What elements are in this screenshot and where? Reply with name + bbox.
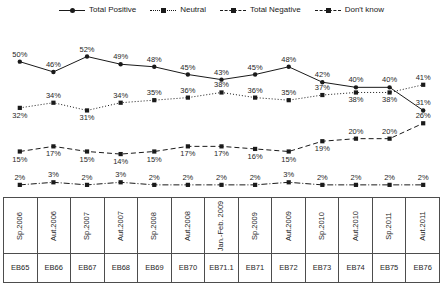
data-label: 26% — [416, 112, 431, 120]
series-point[interactable] — [253, 96, 257, 100]
data-label: 15% — [12, 156, 27, 164]
axis-code-label: EB68 — [112, 264, 130, 272]
series-point[interactable] — [152, 98, 156, 102]
series-point[interactable] — [320, 183, 324, 187]
axis-column: Sp.2006EB65 — [4, 198, 38, 282]
series-point[interactable] — [18, 59, 22, 63]
series-point[interactable] — [119, 180, 123, 184]
legend-item-label: Total Negative — [250, 5, 301, 15]
series-point[interactable] — [85, 108, 89, 112]
series-point[interactable] — [51, 144, 55, 148]
data-label: 34% — [113, 92, 128, 100]
series-point[interactable] — [51, 101, 55, 105]
axis-period-cell: Aut.2010 — [339, 198, 372, 253]
series-point[interactable] — [51, 180, 55, 184]
series-point[interactable] — [219, 144, 223, 148]
series-point[interactable] — [387, 85, 391, 89]
series-point[interactable] — [354, 85, 358, 89]
series-point[interactable] — [354, 90, 358, 94]
series-point[interactable] — [421, 183, 425, 187]
chart-svg — [0, 18, 443, 198]
legend-swatch-icon — [59, 6, 85, 14]
axis-column: Aut.2010EB74 — [339, 198, 373, 282]
series-point[interactable] — [287, 180, 291, 184]
legend-item-total-positive[interactable]: Total Positive — [59, 5, 136, 15]
series-point[interactable] — [219, 90, 223, 94]
axis-code-cell: EB68 — [105, 253, 138, 282]
series-point[interactable] — [219, 183, 223, 187]
series-point[interactable] — [152, 65, 156, 69]
axis-period-cell: Aut.2011 — [406, 198, 439, 253]
legend-item-label: Don't know — [345, 5, 384, 15]
series-point[interactable] — [18, 106, 22, 110]
legend-item-total-negative[interactable]: Total Negative — [220, 5, 301, 15]
series-point[interactable] — [287, 65, 291, 69]
axis-code-label: EB71 — [246, 264, 264, 272]
series-point[interactable] — [253, 72, 257, 76]
series-point[interactable] — [186, 144, 190, 148]
axis-period-cell: Jan.-Feb. 2009 — [205, 198, 238, 253]
data-label: 38% — [382, 96, 397, 104]
series-point[interactable] — [320, 139, 324, 143]
axis-code-label: EB67 — [78, 264, 96, 272]
series-point[interactable] — [287, 98, 291, 102]
data-label: 43% — [214, 69, 229, 77]
series-point[interactable] — [152, 183, 156, 187]
series-point[interactable] — [421, 83, 425, 87]
data-label: 48% — [281, 56, 296, 64]
series-point[interactable] — [186, 183, 190, 187]
x-axis-table: Sp.2006EB65Aut.2006EB66Sp.2007EB67Aut.20… — [3, 197, 440, 283]
series-point[interactable] — [152, 149, 156, 153]
data-label: 48% — [147, 56, 162, 64]
legend-item-neutral[interactable]: Neutral — [150, 5, 206, 15]
data-label: 19% — [315, 145, 330, 153]
axis-code-label: EB76 — [413, 264, 431, 272]
series-point[interactable] — [119, 101, 123, 105]
axis-code-cell: EB75 — [373, 253, 406, 282]
data-label: 52% — [80, 46, 95, 54]
series-point[interactable] — [85, 183, 89, 187]
axis-period-cell: Aut.2008 — [172, 198, 205, 253]
axis-period-label: Sp.2011 — [385, 212, 393, 239]
series-point[interactable] — [387, 90, 391, 94]
series-point[interactable] — [186, 96, 190, 100]
series-point[interactable] — [186, 72, 190, 76]
series-point[interactable] — [18, 149, 22, 153]
legend-swatch-icon — [315, 6, 341, 14]
data-label: 2% — [317, 174, 328, 182]
legend-item-don-t-know[interactable]: Don't know — [315, 5, 384, 15]
axis-code-cell: EB65 — [4, 253, 37, 282]
series-point[interactable] — [387, 137, 391, 141]
axis-period-label: Sp.2010 — [318, 212, 326, 240]
axis-period-cell: Sp.2007 — [71, 198, 104, 253]
axis-period-cell: Sp.2006 — [4, 198, 37, 253]
axis-column: Aut.2009EB72 — [272, 198, 306, 282]
legend-item-label: Neutral — [180, 5, 206, 15]
series-point[interactable] — [287, 149, 291, 153]
axis-period-label: Aut.2009 — [285, 210, 293, 240]
series-point[interactable] — [85, 54, 89, 58]
series-point[interactable] — [85, 149, 89, 153]
series-point[interactable] — [421, 121, 425, 125]
series-point[interactable] — [18, 183, 22, 187]
series-point[interactable] — [354, 183, 358, 187]
data-label: 35% — [281, 89, 296, 97]
series-point[interactable] — [320, 93, 324, 97]
data-label: 2% — [216, 174, 227, 182]
series-point[interactable] — [51, 70, 55, 74]
axis-period-label: Aut.2008 — [184, 210, 192, 240]
data-label: 17% — [214, 150, 229, 158]
axis-period-cell: Sp.2011 — [373, 198, 406, 253]
data-label: 2% — [14, 174, 25, 182]
axis-period-label: Sp.2008 — [150, 212, 158, 240]
series-point[interactable] — [253, 183, 257, 187]
data-label: 2% — [351, 174, 362, 182]
axis-code-label: EB70 — [179, 264, 197, 272]
series-point[interactable] — [119, 152, 123, 156]
data-label: 50% — [12, 51, 27, 59]
data-label: 14% — [113, 158, 128, 166]
series-point[interactable] — [118, 62, 122, 66]
series-point[interactable] — [253, 147, 257, 151]
series-point[interactable] — [387, 183, 391, 187]
series-point[interactable] — [354, 137, 358, 141]
